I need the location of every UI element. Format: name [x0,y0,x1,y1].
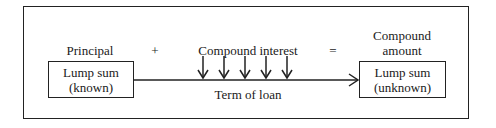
principal-label: Principal [67,43,114,58]
term-of-loan-label: Term of loan [215,87,282,102]
plus-sign: + [151,43,158,58]
equals-sign: = [329,43,336,58]
interest-arrows-icon [198,56,292,78]
compound-amount-box-line2: (unknown) [374,80,431,95]
compound-amount-label-line2: amount [383,43,422,58]
compound-amount-label-line1: Compound [373,28,431,43]
principal-box-line1: Lump sum [63,65,119,80]
compound-interest-label: Compound interest [198,43,297,58]
principal-box: Lump sum (known) [48,61,134,98]
principal-box-line2: (known) [69,80,113,95]
compound-amount-box: Lump sum (unknown) [359,61,446,98]
compound-amount-box-line1: Lump sum [375,65,431,80]
